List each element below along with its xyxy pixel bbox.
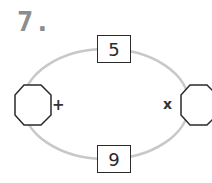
plus-operator: +	[52, 96, 65, 114]
times-operator: x	[163, 96, 172, 112]
bottom-number-box: 9	[97, 145, 131, 173]
math-ring-puzzle: 7. 5 9 + x	[0, 0, 212, 183]
left-answer-octagon[interactable]	[15, 85, 51, 125]
right-answer-octagon[interactable]	[181, 85, 212, 125]
problem-number: 7.	[17, 8, 52, 36]
top-number-box: 5	[97, 35, 131, 63]
